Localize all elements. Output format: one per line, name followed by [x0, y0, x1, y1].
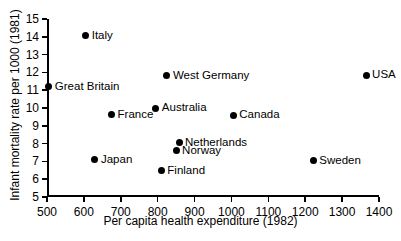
data-point: [108, 111, 115, 118]
y-tick-label: 7: [32, 155, 39, 167]
y-tick-label: 8: [32, 138, 39, 150]
y-tick-mark: [42, 125, 47, 127]
y-tick-mark: [42, 18, 47, 20]
y-tick-mark: [42, 72, 47, 74]
data-point: [363, 72, 370, 79]
y-tick-label: 6: [32, 173, 39, 185]
data-point-label: Japan: [101, 154, 132, 166]
x-tick-mark: [268, 197, 270, 202]
data-point: [163, 72, 170, 79]
data-point-label: Australia: [162, 102, 207, 114]
x-tick-mark: [378, 197, 380, 202]
y-tick-mark: [42, 143, 47, 145]
x-axis-line: [47, 195, 379, 197]
data-point: [82, 32, 89, 39]
y-axis-title: Infant mortality rate per 1000 (1981): [8, 5, 22, 205]
data-point: [310, 157, 317, 164]
data-point: [152, 105, 159, 112]
y-tick-label: 14: [26, 31, 39, 43]
y-tick-mark: [42, 54, 47, 56]
x-axis-title: Per capita health expenditure (1982): [0, 214, 401, 228]
y-tick-label: 12: [26, 66, 39, 78]
data-point-label: Sweden: [319, 155, 361, 167]
data-point: [173, 147, 180, 154]
x-tick-mark: [304, 197, 306, 202]
y-axis-line: [47, 19, 49, 197]
y-tick-label: 5: [32, 191, 39, 203]
x-tick-mark: [157, 197, 159, 202]
y-tick-mark: [42, 161, 47, 163]
x-tick-mark: [83, 197, 85, 202]
x-tick-mark: [46, 197, 48, 202]
data-point: [45, 83, 52, 90]
x-tick-mark: [231, 197, 233, 202]
y-tick-label: 11: [27, 84, 39, 96]
y-tick-label: 15: [26, 13, 39, 25]
y-tick-label: 13: [26, 49, 39, 61]
y-tick-mark: [42, 36, 47, 38]
x-tick-mark: [120, 197, 122, 202]
y-tick-label: 10: [26, 102, 39, 114]
x-tick-mark: [341, 197, 343, 202]
data-point: [91, 156, 98, 163]
data-point-label: Finland: [167, 165, 205, 177]
plot-area: ItalyWest GermanyUSAGreat BritainAustral…: [47, 19, 379, 197]
y-tick-mark: [42, 178, 47, 180]
data-point-label: USA: [372, 69, 396, 81]
y-tick-label: 9: [32, 120, 39, 132]
data-point-label: Great Britain: [55, 81, 120, 93]
data-point-label: Canada: [239, 109, 279, 121]
x-tick-mark: [194, 197, 196, 202]
data-point-label: West Germany: [173, 70, 249, 82]
scatter-chart: ItalyWest GermanyUSAGreat BritainAustral…: [0, 0, 401, 241]
data-point-label: Norway: [182, 145, 221, 157]
data-point-label: France: [118, 109, 154, 121]
y-tick-mark: [42, 107, 47, 109]
data-point-label: Italy: [92, 30, 113, 42]
data-point: [230, 112, 237, 119]
data-point: [158, 167, 165, 174]
